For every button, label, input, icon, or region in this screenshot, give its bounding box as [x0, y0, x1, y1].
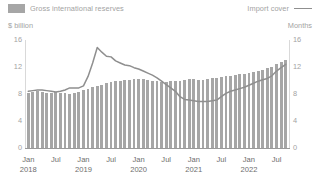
line-series [26, 40, 288, 148]
plot-baseline [25, 148, 290, 149]
y-tick-label: 12 [14, 63, 22, 70]
y-tick-label: 8 [18, 90, 22, 97]
chart-legend: Gross international reserves Import cove… [0, 4, 318, 18]
x-tick-month: Jul [96, 155, 126, 165]
y-axis-left: 0481216 [2, 40, 24, 148]
y-tick-label: 0 [293, 144, 297, 151]
x-tick-month: Jan [179, 155, 209, 165]
x-tick-label: Jul [96, 155, 126, 165]
x-tick-month: Jan [124, 155, 154, 165]
x-tick-label: Jul [262, 155, 292, 165]
y-tick-label: 4 [18, 117, 22, 124]
y-tick-label: 12 [293, 63, 301, 70]
x-tick-month: Jan [234, 155, 264, 165]
y-tick-label: 16 [293, 36, 301, 43]
x-tick-month: Jan [13, 155, 43, 165]
x-tick-year: 2019 [68, 165, 98, 175]
x-tick-month: Jul [262, 155, 292, 165]
plot-right-border [289, 40, 290, 149]
x-tick-label: Jul [151, 155, 181, 165]
legend-swatch-bar-icon [8, 4, 25, 13]
legend-label-line: Import cover [247, 4, 289, 13]
y-axis-left-title: $ billion [8, 21, 33, 30]
import-cover-line [28, 47, 285, 101]
y-axis-right-title: Months [288, 21, 312, 30]
x-tick-year: 2022 [234, 165, 264, 175]
y-tick-label: 4 [293, 117, 297, 124]
y-tick-label: 8 [293, 90, 297, 97]
x-tick-year: 2020 [124, 165, 154, 175]
x-tick-month: Jan [68, 155, 98, 165]
x-tick-label: Jan2022 [234, 155, 264, 174]
x-tick-label: Jan2018 [13, 155, 43, 174]
legend-item-gross-international-reserves: Gross international reserves [8, 4, 124, 13]
y-tick-label: 0 [18, 144, 22, 151]
x-axis-labels: Jan2018JulJan2019JulJan2020JulJan2021Jul… [26, 155, 288, 181]
x-tick-month: Jul [41, 155, 71, 165]
legend-label-bar: Gross international reserves [30, 4, 124, 13]
x-tick-label: Jan2020 [124, 155, 154, 174]
x-tick-label: Jan2021 [179, 155, 209, 174]
y-axis-right: 0481216 [290, 40, 312, 148]
x-tick-year: 2021 [179, 165, 209, 175]
x-tick-label: Jul [41, 155, 71, 165]
plot-area [26, 40, 288, 148]
x-tick-month: Jul [206, 155, 236, 165]
x-tick-label: Jul [206, 155, 236, 165]
chart-root: Gross international reserves Import cove… [0, 0, 318, 185]
x-tick-month: Jul [151, 155, 181, 165]
y-tick-label: 16 [14, 36, 22, 43]
legend-line-icon [294, 8, 312, 9]
x-tick-year: 2018 [13, 165, 43, 175]
legend-item-import-cover: Import cover [247, 4, 312, 13]
x-tick-label: Jan2019 [68, 155, 98, 174]
